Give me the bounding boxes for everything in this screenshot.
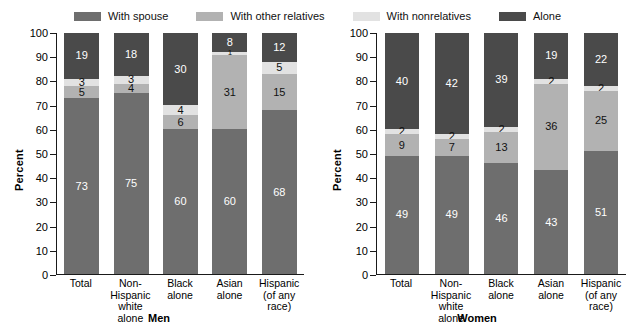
bar-segment[interactable]: 68: [262, 110, 297, 274]
bar-segment-value: 5: [79, 87, 85, 98]
legend-swatch-alone: [499, 12, 526, 21]
legend-item-spouse: With spouse: [74, 11, 169, 22]
bar-segment[interactable]: 6: [163, 115, 198, 129]
bar-segment-value: 73: [76, 181, 88, 192]
y-tick-label-men-90: 90: [36, 52, 48, 63]
x-category-line1: Asian: [538, 277, 564, 289]
x-axis-line-men: [56, 274, 304, 275]
y-tick-label-men-30: 30: [36, 197, 48, 208]
y-tick-label-men-60: 60: [36, 124, 48, 135]
bar-segment[interactable]: 51: [584, 151, 618, 274]
x-category-line1: Hispanic: [259, 277, 299, 289]
bar-column-men-1[interactable]: 183475: [114, 33, 149, 274]
y-tick-women-70: [370, 106, 376, 107]
panel-women: Percent 0102030405060708090100 402949422…: [318, 26, 635, 324]
bar-segment[interactable]: 3: [64, 79, 99, 86]
bar-segment[interactable]: 9: [385, 134, 419, 156]
x-category-line2: (of any race): [578, 290, 624, 313]
bar-segment-value: 60: [174, 196, 186, 207]
y-tick-label-women-80: 80: [356, 76, 368, 87]
x-category-line1: Black: [488, 277, 514, 289]
bar-segment[interactable]: 22: [584, 33, 618, 86]
y-tick-label-women-0: 0: [362, 270, 368, 281]
legend-swatch-spouse: [74, 12, 101, 21]
y-tick-women-30: [370, 202, 376, 203]
bar-segment[interactable]: 49: [435, 156, 469, 274]
legend-label-alone: Alone: [533, 11, 561, 22]
bar-column-men-2[interactable]: 304660: [163, 33, 198, 274]
bar-segment[interactable]: 30: [163, 33, 198, 105]
bar-segment[interactable]: 43: [534, 170, 568, 274]
bar-segment[interactable]: 5: [64, 86, 99, 98]
y-tick-men-40: [50, 178, 56, 179]
y-tick-men-50: [50, 154, 56, 155]
bar-segment[interactable]: 75: [114, 93, 149, 274]
bar-segment[interactable]: 7: [435, 139, 469, 156]
y-tick-label-men-70: 70: [36, 100, 48, 111]
bar-segment-value: 5: [276, 62, 282, 73]
y-tick-label-women-30: 30: [356, 197, 368, 208]
y-tick-label-women-70: 70: [356, 100, 368, 111]
bar-segment[interactable]: 42: [435, 33, 469, 134]
y-tick-label-men-10: 10: [36, 245, 48, 256]
y-tick-men-0: [50, 275, 56, 276]
bar-segment[interactable]: 25: [584, 91, 618, 151]
bar-column-women-2[interactable]: 3921346: [484, 33, 518, 274]
bar-segment-value: 42: [446, 78, 458, 89]
bar-segment[interactable]: 5: [262, 62, 297, 74]
bar-column-women-1[interactable]: 422749: [435, 33, 469, 274]
y-tick-label-women-50: 50: [356, 149, 368, 160]
y-tick-women-80: [370, 81, 376, 82]
x-category-line1: Non-Hispanic: [110, 277, 150, 301]
bar-segment-value: 9: [399, 140, 405, 151]
legend-label-nonrelatives: With nonrelatives: [387, 11, 471, 22]
bar-segment-value: 68: [273, 187, 285, 198]
plot-area-women: 0102030405060708090100 40294942274939213…: [376, 33, 626, 275]
x-category-line2: alone: [478, 290, 524, 302]
bar-segment[interactable]: 40: [385, 33, 419, 129]
bar-segment[interactable]: 19: [64, 33, 99, 79]
bar-segment[interactable]: 19: [534, 33, 568, 79]
y-tick-men-90: [50, 57, 56, 58]
bar-column-women-3[interactable]: 1923643: [534, 33, 568, 274]
bar-segment[interactable]: 46: [484, 163, 518, 274]
bar-segment-value: 60: [224, 196, 236, 207]
legend-label-other_relatives: With other relatives: [230, 11, 324, 22]
x-category-line2: alone: [207, 290, 253, 302]
bar-segment[interactable]: 12: [262, 33, 297, 62]
y-tick-label-men-0: 0: [42, 270, 48, 281]
bar-segment[interactable]: 15: [262, 74, 297, 110]
y-tick-label-women-90: 90: [356, 52, 368, 63]
bar-segment-value: 43: [545, 217, 557, 228]
bar-segment-value: 25: [595, 115, 607, 126]
x-category-line1: Total: [70, 277, 92, 289]
y-tick-women-0: [370, 275, 376, 276]
bar-segment[interactable]: 39: [484, 33, 518, 127]
bar-segment[interactable]: 18: [114, 33, 149, 76]
bar-segment[interactable]: 3: [114, 76, 149, 83]
bar-column-men-0[interactable]: 193573: [64, 33, 99, 274]
panel-title-men: Men: [30, 312, 288, 324]
y-tick-label-men-50: 50: [36, 149, 48, 160]
bar-segment[interactable]: 8: [212, 33, 247, 52]
bar-column-men-3[interactable]: 813160: [212, 33, 247, 274]
bar-segment[interactable]: 36: [534, 84, 568, 171]
bar-segment[interactable]: 60: [212, 129, 247, 274]
bar-segment[interactable]: 73: [64, 98, 99, 274]
bar-segment[interactable]: 31: [212, 55, 247, 130]
x-category-line2: (of any race): [256, 290, 302, 313]
y-tick-label-men-40: 40: [36, 173, 48, 184]
bar-segment-value: 8: [227, 37, 233, 48]
bar-segment[interactable]: 49: [385, 156, 419, 274]
bar-segment[interactable]: 60: [163, 129, 198, 274]
bar-column-women-4[interactable]: 2222551: [584, 33, 618, 274]
bar-segment-value: 12: [273, 42, 285, 53]
bar-segment[interactable]: 4: [163, 105, 198, 115]
y-tick-women-20: [370, 227, 376, 228]
bar-segment[interactable]: 4: [114, 84, 149, 94]
panel-title-women: Women: [348, 312, 606, 324]
bar-column-men-4[interactable]: 1251568: [262, 33, 297, 274]
y-tick-label-women-60: 60: [356, 124, 368, 135]
bar-column-women-0[interactable]: 402949: [385, 33, 419, 274]
bar-segment[interactable]: 13: [484, 132, 518, 163]
